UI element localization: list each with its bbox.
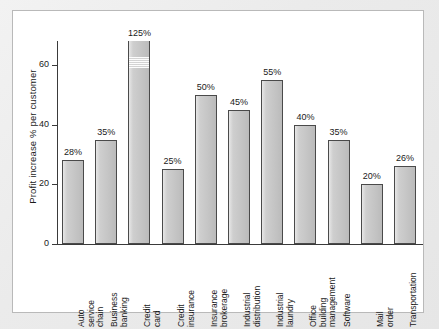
bar (261, 80, 283, 244)
bar-value-label: 35% (86, 127, 126, 137)
bar-value-label: 26% (385, 153, 425, 163)
y-tick: 40 (14, 125, 58, 126)
x-axis-category-label: Mailorder (376, 249, 395, 327)
y-tick-label: 0 (19, 239, 49, 248)
x-axis-category-label: Transportation (409, 249, 419, 327)
x-axis-category-label: Creditinsurance (177, 249, 196, 327)
axis-break-band (129, 57, 149, 68)
bar-value-label: 28% (53, 147, 93, 157)
bar (328, 140, 350, 244)
x-axis-category-label: Businessbanking (110, 249, 129, 327)
x-axis-category-label: Industrialdistribution (243, 249, 262, 327)
bar-chart: Profit increase % per customer 0204060 2… (0, 0, 439, 329)
bar (394, 166, 416, 244)
y-tick: 60 (14, 65, 58, 66)
y-axis-title: Profit increase % per customer (27, 47, 38, 227)
bar (162, 169, 184, 244)
x-axis-category-label: Software (343, 249, 353, 327)
bar (95, 140, 117, 244)
x-axis-category-label: Creditcard (143, 249, 162, 327)
x-axis-line (57, 244, 423, 245)
bar-value-label: 55% (252, 67, 292, 77)
bar-value-label: 35% (319, 127, 359, 137)
y-axis-line (57, 41, 58, 245)
y-tick-label: 60 (19, 60, 49, 69)
bar-value-label: 50% (186, 82, 226, 92)
x-axis-category-label: Autoservicechain (77, 249, 106, 327)
x-axis-category-label: Industriallaundry (276, 249, 295, 327)
y-tick-label: 20 (19, 179, 49, 188)
x-axis-category-label: Insurancebrokerage (210, 249, 229, 327)
bar-value-label: 25% (153, 156, 193, 166)
bar (361, 184, 383, 244)
bar-value-label: 40% (285, 112, 325, 122)
bar-value-label: 45% (219, 97, 259, 107)
bar-value-label: 125% (119, 28, 159, 38)
bar (195, 95, 217, 244)
bar (62, 160, 84, 244)
bar (294, 125, 316, 244)
bar (228, 110, 250, 244)
bar (128, 41, 150, 244)
figure: Profit increase % per customer 0204060 2… (0, 0, 439, 329)
y-tick: 0 (14, 244, 58, 245)
bar-value-label: 20% (352, 171, 392, 181)
x-axis-category-label: Officebuildingmanagement (309, 249, 338, 327)
y-tick: 20 (14, 184, 58, 185)
y-tick-label: 40 (19, 120, 49, 129)
